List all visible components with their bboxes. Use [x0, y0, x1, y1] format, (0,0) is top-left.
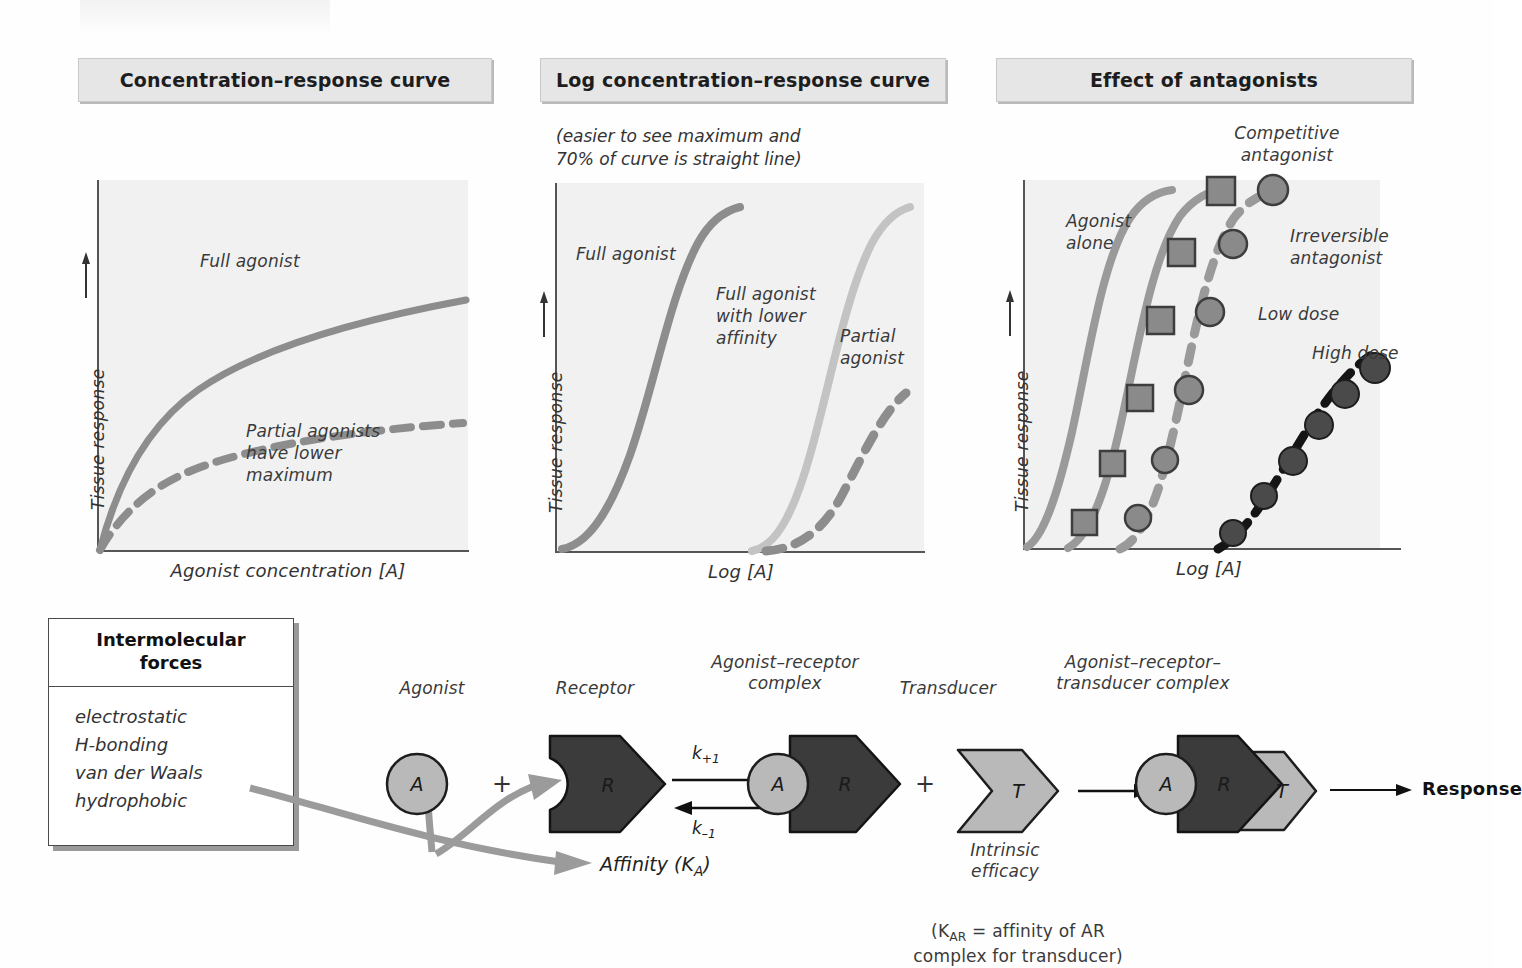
- chart-log-concentration-response: (easier to see maximum and 70% of curve …: [534, 125, 954, 590]
- transducer-shape: [958, 750, 1058, 832]
- x-axis-label-1: Agonist concentration [A]: [98, 560, 478, 581]
- scan-artifact: [80, 0, 330, 34]
- agonist-glyph: A: [409, 773, 424, 795]
- y-axis-arrowhead-2: [540, 291, 548, 303]
- reverse-arrowhead: [674, 801, 692, 815]
- branch-to-receptor-arrowhead: [528, 774, 562, 800]
- x-axis-label-2: Log [A]: [556, 561, 926, 582]
- y-axis-label-2: Tissue response: [546, 371, 566, 513]
- curve-partial-agonist-2: [766, 393, 906, 551]
- x-axis-label-3: Log [A]: [1024, 558, 1394, 579]
- chart-effect-of-antagonists: Competitive antagonist: [990, 120, 1435, 590]
- panel-title-2: Log concentration–response curve: [540, 58, 946, 102]
- label-low-dose: Low dose: [1258, 303, 1339, 325]
- kar-definition: (KAR = affinity of AR complex for transd…: [878, 900, 1158, 967]
- affinity-arrowhead: [554, 851, 592, 875]
- scheme-graphics: A + R A R + T: [0, 600, 1493, 968]
- label-full-agonist-2: Full agonist: [576, 243, 676, 265]
- panel-title-3: Effect of antagonists: [996, 58, 1412, 102]
- plus-sign-1: +: [492, 770, 512, 798]
- k-forward-label: k+1: [692, 743, 720, 766]
- label-agonist-alone: Agonist alone: [1066, 210, 1131, 254]
- label-full-agonist-1: Full agonist: [200, 250, 300, 272]
- affinity-label: Affinity (KA): [600, 853, 711, 879]
- y-axis-arrowhead-1: [82, 252, 90, 264]
- y-axis-label-3: Tissue response: [1012, 370, 1032, 512]
- intrinsic-efficacy-label: Intrinsic efficacy: [930, 840, 1080, 883]
- art-receptor-glyph: R: [1217, 773, 1230, 795]
- response-label: Response: [1422, 778, 1522, 799]
- receptor-binding-scheme: Agonist Receptor Agonist–receptor comple…: [0, 600, 1493, 968]
- transducer-glyph: T: [1012, 780, 1025, 802]
- label-partial-agonist-2: Partial agonist: [840, 325, 904, 369]
- chart-concentration-response: Tissue response Agonist concentration [A…: [78, 180, 498, 590]
- ar-agonist-glyph: A: [770, 773, 785, 795]
- art-transducer-glyph: T: [1276, 780, 1289, 802]
- label-high-dose: High dose: [1312, 342, 1399, 364]
- receptor-glyph: R: [601, 774, 614, 796]
- y-axis-arrowhead-3: [1006, 290, 1014, 302]
- art-agonist-glyph: A: [1158, 773, 1173, 795]
- branch-to-receptor-line: [436, 786, 534, 854]
- panel-title-1: Concentration–response curve: [78, 58, 492, 102]
- k-reverse-label: k–1: [692, 818, 716, 841]
- label-irreversible-antagonist: Irreversible antagonist: [1290, 225, 1389, 269]
- curves-1: [78, 180, 498, 590]
- response-arrowhead: [1396, 784, 1412, 796]
- y-axis-label-1: Tissue response: [88, 368, 108, 510]
- curve-lower-affinity-2: [752, 207, 910, 551]
- plus-sign-2: +: [915, 770, 935, 798]
- markers-irreversible-low-dose: [1125, 175, 1288, 531]
- label-partial-agonist-1: Partial agonists have lower maximum: [246, 420, 380, 486]
- markers-irreversible-high-dose: [1220, 353, 1390, 546]
- label-lower-affinity-2: Full agonist with lower affinity: [716, 283, 816, 349]
- ar-receptor-glyph: R: [838, 773, 851, 795]
